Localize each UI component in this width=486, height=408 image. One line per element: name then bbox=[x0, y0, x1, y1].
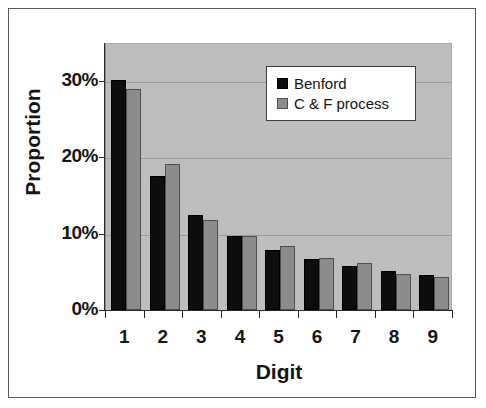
x-tick-mark-5 bbox=[298, 311, 299, 318]
y-tick-mark-20 bbox=[99, 157, 105, 158]
x-tick-mark-8 bbox=[413, 311, 414, 318]
legend-item-cf-process: C & F process bbox=[277, 93, 407, 113]
x-tick-mark-4 bbox=[259, 311, 260, 318]
x-tick-label-6: 6 bbox=[297, 326, 337, 348]
x-tick-mark-6 bbox=[336, 311, 337, 318]
legend-swatch-icon bbox=[277, 78, 288, 89]
legend-label: Benford bbox=[294, 75, 347, 92]
legend-item-benford: Benford bbox=[277, 73, 407, 93]
x-tick-mark-0 bbox=[105, 311, 106, 318]
x-tick-mark-2 bbox=[182, 311, 183, 318]
chart-legend: BenfordC & F process bbox=[266, 66, 416, 121]
y-axis-title: Proportion bbox=[21, 52, 45, 232]
y-tick-label-0pct: 0% bbox=[28, 298, 98, 320]
x-tick-label-8: 8 bbox=[374, 326, 414, 348]
x-tick-label-7: 7 bbox=[336, 326, 376, 348]
x-tick-label-9: 9 bbox=[413, 326, 453, 348]
x-tick-mark-7 bbox=[375, 311, 376, 318]
x-tick-label-2: 2 bbox=[143, 326, 183, 348]
x-tick-label-4: 4 bbox=[220, 326, 260, 348]
chart-figure: 0%10%20%30% 123456789 Proportion Digit B… bbox=[0, 0, 486, 408]
x-tick-mark-9 bbox=[452, 311, 453, 318]
legend-swatch-icon bbox=[277, 98, 288, 109]
x-tick-label-5: 5 bbox=[259, 326, 299, 348]
x-tick-mark-1 bbox=[144, 311, 145, 318]
x-tick-mark-3 bbox=[221, 311, 222, 318]
x-tick-label-3: 3 bbox=[181, 326, 221, 348]
x-tick-label-1: 1 bbox=[104, 326, 144, 348]
y-tick-mark-10 bbox=[99, 234, 105, 235]
legend-label: C & F process bbox=[294, 95, 389, 112]
x-axis-title: Digit bbox=[105, 360, 453, 384]
y-tick-mark-30 bbox=[99, 81, 105, 82]
